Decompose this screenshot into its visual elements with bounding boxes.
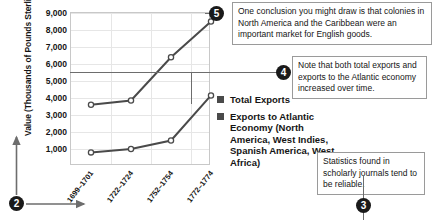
- callout-badge-3[interactable]: 3: [356, 198, 371, 213]
- callout-badge-4[interactable]: 4: [276, 65, 291, 80]
- callout-badge-5[interactable]: 5: [209, 6, 224, 21]
- axis-arrow-layer: [0, 0, 435, 220]
- axis-badge-2[interactable]: 2: [9, 196, 24, 211]
- figure-root: Value (Thousands of Pounds Sterling) 9,0…: [0, 0, 435, 220]
